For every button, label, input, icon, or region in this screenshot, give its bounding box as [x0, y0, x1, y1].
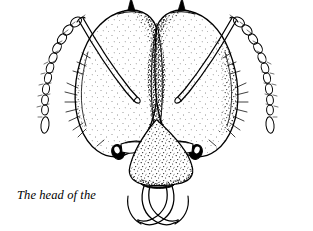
- figure-caption: The head of the leaf-cutting ant: [17, 150, 137, 231]
- caption-line-1: The head of the: [17, 186, 137, 204]
